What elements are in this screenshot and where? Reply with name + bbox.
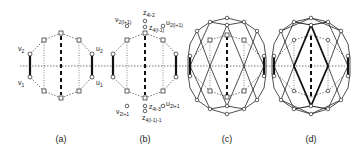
label-z-4l-3: z4l-3 xyxy=(149,103,161,112)
caption-a: (a) xyxy=(56,134,67,144)
panel-a-graph xyxy=(28,31,94,100)
label-sub: 2 xyxy=(22,48,25,54)
label-sub: 4(l-1) xyxy=(153,27,165,33)
label-v1: v1 xyxy=(18,79,24,88)
label-sub: 2 xyxy=(100,48,103,54)
label-v2: v2 xyxy=(18,45,24,54)
label-sub: 2l+1 xyxy=(120,111,130,117)
label-v-2l+1-top: v2(l+1) xyxy=(115,16,131,25)
label-sub: 2(l+1) xyxy=(119,19,132,25)
label-u-2l+1-top: u2(l+1) xyxy=(166,19,183,28)
label-sub: 1 xyxy=(22,82,25,88)
label-u1: u1 xyxy=(96,79,103,88)
label-sub: 2l+1 xyxy=(170,103,180,109)
label-z-4l-2: z4l-2 xyxy=(143,9,155,18)
label-u-2l+1-bottom: u2l+1 xyxy=(166,100,180,109)
label-z-4l-1-1: z4(l-1)-1 xyxy=(142,114,162,123)
label-sub: 4(l-1)-1 xyxy=(146,117,162,123)
caption-b: (b) xyxy=(140,134,151,144)
caption-d: (d) xyxy=(306,134,317,144)
caption-c: (c) xyxy=(222,134,233,144)
label-sub: 4l-2 xyxy=(147,12,155,18)
label-sub: 2(l+1) xyxy=(170,22,183,28)
label-u2: u2 xyxy=(96,45,103,54)
label-z-4l-1: z4(l-1) xyxy=(149,24,164,33)
label-sub: 4l-3 xyxy=(153,106,161,112)
label-v-2l+1-bottom: v2l+1 xyxy=(116,108,129,117)
label-sub: 1 xyxy=(100,82,103,88)
